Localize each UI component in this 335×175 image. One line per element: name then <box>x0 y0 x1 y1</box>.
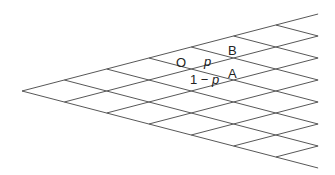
lattice-edge <box>276 25 318 36</box>
lattice-edge <box>107 58 149 69</box>
lattice-edge <box>276 146 318 157</box>
lattice-edge <box>149 91 191 102</box>
lattice-edge <box>149 80 191 91</box>
lattice-edge <box>234 135 276 146</box>
node-a-label: A <box>228 67 237 80</box>
lattice-edge <box>191 91 233 102</box>
lattice-edge <box>234 91 276 102</box>
lattice-edge <box>149 102 191 113</box>
lattice-edge <box>234 124 276 135</box>
down-probability-var: p <box>212 72 219 87</box>
lattice-edge <box>276 102 318 113</box>
up-probability-label: p <box>204 55 211 68</box>
lattice-edge <box>191 113 233 124</box>
lattice-edge <box>149 124 191 135</box>
lattice-edge <box>276 80 318 91</box>
lattice-edge <box>276 58 318 69</box>
down-probability-prefix: 1 − <box>190 72 212 87</box>
lattice-edge <box>234 36 276 47</box>
lattice-edge <box>234 146 276 157</box>
lattice-edge <box>22 91 64 102</box>
node-b-label: B <box>228 44 237 57</box>
lattice-edge <box>276 157 318 168</box>
lattice-edge <box>107 80 149 91</box>
lattice-edge <box>276 113 318 124</box>
lattice-edge <box>276 91 318 102</box>
lattice-edge <box>234 47 276 58</box>
lattice-edge <box>149 69 191 80</box>
lattice-edge <box>191 135 233 146</box>
lattice-edge <box>234 58 276 69</box>
lattice-edge <box>234 69 276 80</box>
lattice-edge <box>234 80 276 91</box>
lattice-edge <box>107 69 149 80</box>
lattice-edge <box>234 102 276 113</box>
lattice-edge <box>64 80 106 91</box>
lattice-edge <box>276 36 318 47</box>
lattice-edge <box>22 80 64 91</box>
lattice-edge <box>149 113 191 124</box>
lattice-edge <box>64 91 106 102</box>
lattice-diagram <box>0 0 335 175</box>
lattice-edge <box>64 69 106 80</box>
lattice-edge <box>191 102 233 113</box>
lattice-edge <box>234 25 276 36</box>
lattice-edge <box>276 124 318 135</box>
lattice-edge <box>191 124 233 135</box>
lattice-edge <box>276 69 318 80</box>
lattice-edge <box>276 135 318 146</box>
lattice-edge <box>234 113 276 124</box>
lattice-edge <box>276 14 318 25</box>
lattice-edge <box>107 91 149 102</box>
origin-label: O <box>176 56 186 69</box>
down-probability-label: 1 − p <box>190 73 219 86</box>
lattice-edge <box>107 113 149 124</box>
lattice-edge <box>107 102 149 113</box>
lattice-edge <box>276 47 318 58</box>
lattice-edge <box>64 102 106 113</box>
